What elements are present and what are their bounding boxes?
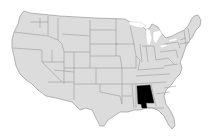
us-map bbox=[0, 0, 214, 138]
us-landmass bbox=[12, 11, 201, 129]
